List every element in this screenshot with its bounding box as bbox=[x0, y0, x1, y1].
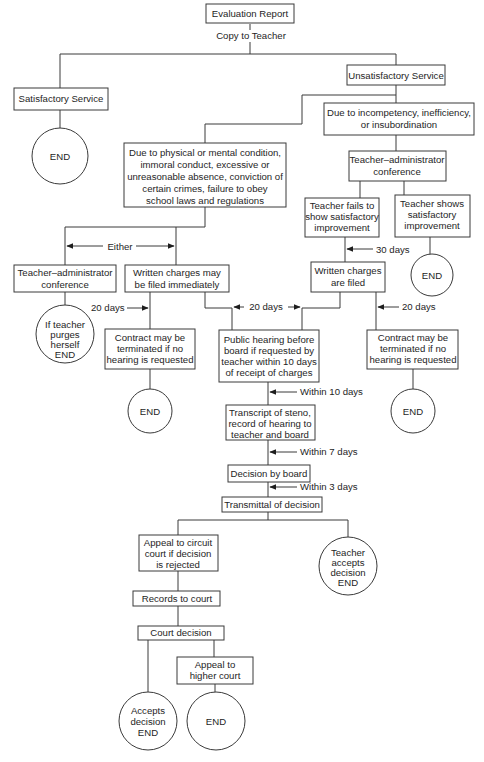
node-label: Public hearing before bbox=[224, 334, 315, 345]
node-contract-left: Contract may be terminated if no hearing… bbox=[105, 329, 195, 369]
node-satisfactory-service: Satisfactory Service bbox=[14, 88, 108, 110]
node-label: be filed immediately bbox=[135, 279, 220, 290]
node-teacher-shows: Teacher shows satisfactory improvement bbox=[395, 195, 470, 237]
node-label: Transmittal of decision bbox=[224, 499, 320, 510]
node-label: Evaluation Report bbox=[212, 8, 289, 19]
node-label: END bbox=[50, 151, 70, 162]
edge-label-either: Either bbox=[107, 241, 133, 252]
node-label: END bbox=[138, 727, 158, 738]
edge-label-within-7-days: Within 7 days bbox=[300, 446, 358, 457]
node-label: terminated if no bbox=[117, 343, 183, 354]
node-charges-immediately: Written charges may be filed immediately bbox=[125, 265, 229, 292]
edge-label-20-days-left: 20 days bbox=[91, 302, 125, 313]
node-charges-filed: Written charges are filed bbox=[311, 262, 385, 292]
node-contract-right: Contract may be terminated if no hearing… bbox=[367, 330, 458, 369]
node-appeal-higher: Appeal to higher court bbox=[177, 657, 253, 684]
node-label: Teacher–administrator bbox=[18, 267, 114, 278]
node-label: decision bbox=[130, 716, 165, 727]
node-label: Court decision bbox=[150, 627, 211, 638]
node-records-court: Records to court bbox=[133, 591, 220, 606]
node-label: of receipt of charges bbox=[226, 367, 313, 378]
node-conference-right: Teacher–administrator conference bbox=[349, 151, 446, 181]
node-label: court if decision bbox=[145, 548, 212, 559]
node-label: END bbox=[338, 577, 358, 588]
edge-label-within-10-days: Within 10 days bbox=[300, 386, 363, 397]
node-label: improvement bbox=[314, 222, 370, 233]
node-label: END bbox=[422, 270, 442, 281]
node-label: Appeal to bbox=[195, 659, 236, 670]
node-label: Contract may be bbox=[115, 332, 185, 343]
node-label: Satisfactory Service bbox=[19, 93, 104, 104]
node-label: are filed bbox=[331, 277, 365, 288]
node-label: satisfactory bbox=[408, 209, 457, 220]
edge-label-20-days-right: 20 days bbox=[402, 301, 436, 312]
node-label: show satisfactory bbox=[305, 211, 379, 222]
node-label: teacher within 10 days bbox=[221, 356, 317, 367]
node-label: board if requested by bbox=[224, 345, 314, 356]
node-court-decision: Court decision bbox=[138, 626, 224, 640]
node-evaluation-report: Evaluation Report bbox=[206, 4, 294, 23]
node-label: hearing is requested bbox=[107, 354, 194, 365]
edge-label-30-days: 30 days bbox=[376, 244, 410, 255]
node-end-contract-right: END bbox=[391, 389, 435, 433]
node-label: higher court bbox=[190, 670, 241, 681]
node-label: Teacher shows bbox=[400, 198, 464, 209]
node-label: unreasonable absence, conviction of bbox=[127, 171, 283, 182]
node-label: Appeal to circuit bbox=[144, 537, 213, 548]
node-due-physical: Due to physical or mental condition, imm… bbox=[124, 143, 286, 207]
node-appeal-circuit: Appeal to circuit court if decision is r… bbox=[139, 535, 218, 571]
node-label: Due to incompetency, inefficiency, bbox=[327, 107, 471, 118]
node-accepts-decision: Accepts decision END bbox=[119, 692, 177, 750]
node-label: Contract may be bbox=[378, 332, 448, 343]
node-label: Transcript of steno, bbox=[229, 407, 311, 418]
edge-label-copy-to-teacher: Copy to Teacher bbox=[216, 30, 286, 41]
node-label: or insubordination bbox=[361, 119, 437, 130]
node-transcript: Transcript of steno, record of hearing t… bbox=[226, 405, 315, 440]
node-label: hearing is requested bbox=[370, 354, 457, 365]
edge-label-within-3-days: Within 3 days bbox=[300, 481, 358, 492]
node-label: Unsatisfactory Service bbox=[348, 70, 443, 81]
node-label: teacher and board bbox=[231, 429, 309, 440]
node-label: Decision by board bbox=[231, 468, 308, 479]
node-label: Teacher–administrator bbox=[350, 154, 446, 165]
node-label: conference bbox=[41, 279, 88, 290]
node-unsatisfactory-service: Unsatisfactory Service bbox=[347, 65, 445, 85]
node-teacher-accepts: Teacher accepts decision END bbox=[319, 537, 377, 595]
node-label: school laws and regulations bbox=[146, 195, 264, 206]
node-label: immoral conduct, excessive or bbox=[140, 159, 270, 170]
node-purges-end: If teacher purges herself END bbox=[36, 305, 94, 363]
node-label: conference bbox=[373, 166, 420, 177]
node-label: END bbox=[140, 406, 160, 417]
node-end-satisfactory: END bbox=[32, 128, 88, 184]
node-decision-board: Decision by board bbox=[228, 465, 310, 482]
node-due-incompetency: Due to incompetency, inefficiency, or in… bbox=[324, 103, 474, 135]
node-label: END bbox=[403, 406, 423, 417]
node-label: Accepts bbox=[131, 705, 165, 716]
node-transmittal: Transmittal of decision bbox=[222, 497, 322, 512]
node-label: Teacher fails to bbox=[310, 200, 375, 211]
flowchart: Evaluation Report Copy to Teacher Satisf… bbox=[0, 0, 484, 762]
node-label: Written charges may bbox=[133, 267, 221, 278]
node-label: Due to physical or mental condition, bbox=[129, 147, 281, 158]
node-end-contract-left: END bbox=[128, 389, 172, 433]
node-label: certain crimes, failure to obey bbox=[142, 183, 268, 194]
node-label: is rejected bbox=[156, 559, 200, 570]
node-conference-left: Teacher–administrator conference bbox=[14, 265, 116, 292]
node-label: terminated if no bbox=[380, 343, 446, 354]
node-label: improvement bbox=[404, 220, 460, 231]
node-teacher-fails: Teacher fails to show satisfactory impro… bbox=[305, 198, 379, 237]
node-end-final: END bbox=[187, 692, 245, 750]
node-label: Written charges bbox=[314, 265, 381, 276]
node-label: record of hearing to bbox=[228, 418, 311, 429]
node-label: END bbox=[206, 716, 226, 727]
node-label: END bbox=[55, 349, 75, 360]
node-end-improvement: END bbox=[411, 254, 453, 296]
node-label: Records to court bbox=[142, 593, 213, 604]
node-public-hearing: Public hearing before board if requested… bbox=[219, 330, 319, 382]
edge-label-20-days-mid: 20 days bbox=[249, 301, 283, 312]
